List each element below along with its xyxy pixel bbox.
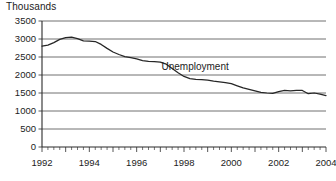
y-tick-label: 0 [31,141,36,152]
x-axis-ticks: 1992199419961998200020022004 [31,147,336,168]
x-tick-label: 2004 [315,157,336,168]
plot-area: 0500100015002000250030003500 19921994199… [0,0,336,181]
x-tick-label: 1992 [31,157,52,168]
y-tick-label: 2500 [15,51,36,62]
y-tick-label: 500 [20,123,36,134]
y-axis-ticks: 0500100015002000250030003500 [15,15,42,152]
y-tick-label: 2000 [15,69,36,80]
gridlines [42,21,326,129]
annotation-unemployment: Unemployment [162,61,229,72]
y-tick-label: 1000 [15,105,36,116]
y-tick-label: 1500 [15,87,36,98]
x-tick-label: 1994 [79,157,100,168]
x-tick-label: 1998 [173,157,194,168]
x-tick-label: 2000 [221,157,242,168]
y-tick-label: 3000 [15,33,36,44]
x-tick-label: 1996 [126,157,147,168]
series-annotations: Unemployment [162,61,229,72]
x-tick-label: 2002 [268,157,289,168]
unemployment-line-chart: Thousands 0500100015002000250030003500 1… [0,0,336,181]
y-tick-label: 3500 [15,15,36,26]
axis-lines [42,21,326,147]
